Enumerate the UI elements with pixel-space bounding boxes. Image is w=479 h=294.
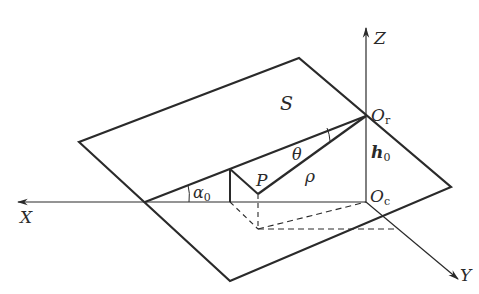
diagram-canvas: S Z X Y Or Oc h0 P α0 θ ρ xyxy=(0,0,479,294)
line-to-p xyxy=(230,169,258,194)
alpha-label: α0 xyxy=(193,183,211,204)
height-label: h0 xyxy=(371,142,390,164)
origin-r-label: Or xyxy=(371,105,391,127)
dash-to-oc xyxy=(258,202,366,229)
plane-label: S xyxy=(280,92,293,114)
x-axis-label: X xyxy=(18,207,33,227)
alpha-arc xyxy=(188,185,189,202)
z-axis-label: Z xyxy=(373,28,387,48)
origin-c-label: Oc xyxy=(370,186,390,208)
theta-label: θ xyxy=(292,145,302,164)
y-axis xyxy=(366,202,458,279)
y-axis-label: Y xyxy=(460,265,473,285)
dash-from-x xyxy=(230,202,258,229)
rho-label: ρ xyxy=(304,166,315,186)
point-p-label: P xyxy=(255,170,268,190)
